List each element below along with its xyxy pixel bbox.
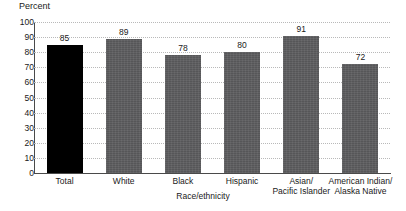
bar-value-label: 72: [356, 53, 365, 62]
bar[interactable]: [342, 64, 378, 173]
y-axis-tick-label: 80: [10, 48, 34, 57]
bar[interactable]: [106, 39, 142, 173]
y-axis-title: Percent: [19, 1, 50, 12]
bar[interactable]: [283, 36, 319, 173]
bar-slot: 89: [94, 22, 153, 173]
y-axis-tick-label: 50: [10, 94, 34, 103]
bar-slot: 80: [213, 22, 272, 173]
bars-layer: 858978809172: [35, 22, 390, 173]
bar-slot: 78: [153, 22, 212, 173]
bar[interactable]: [165, 55, 201, 173]
bar[interactable]: [224, 52, 260, 173]
y-axis-tick-label: 90: [10, 33, 34, 42]
y-axis-tick-label: 10: [10, 154, 34, 163]
bar-value-label: 89: [119, 28, 128, 37]
bar-value-label: 85: [60, 34, 69, 43]
y-axis-tick-label: 40: [10, 109, 34, 118]
bar-slot: 85: [35, 22, 94, 173]
category-label-line: American Indian/: [321, 176, 400, 186]
y-axis-tick-label: 30: [10, 124, 34, 133]
y-axis-tick-label: 100: [10, 18, 34, 27]
bar-value-label: 78: [178, 44, 187, 53]
bar-value-label: 80: [237, 41, 246, 50]
y-axis-tick-label: 20: [10, 139, 34, 148]
bar-slot: 72: [331, 22, 390, 173]
bar[interactable]: [47, 45, 83, 173]
bar-slot: 91: [272, 22, 331, 173]
y-axis-tick-label: 60: [10, 78, 34, 87]
x-axis-title: Race/ethnicity: [0, 191, 406, 201]
y-axis-tick-label: 70: [10, 63, 34, 72]
bar-chart: Percent 1009080706050403020100 858978809…: [0, 0, 406, 211]
bar-value-label: 91: [297, 25, 306, 34]
